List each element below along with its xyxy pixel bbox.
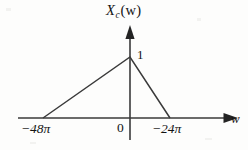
x-tick-label-right: −24π <box>152 122 181 136</box>
origin-label: 0 <box>117 121 124 135</box>
x-tick-label-left: −48π <box>21 122 50 136</box>
title-subscript: c <box>115 10 119 20</box>
triangular-spectrum-trace <box>43 57 170 118</box>
title-argument: (w) <box>121 2 142 18</box>
title-base: X <box>106 2 115 18</box>
figure-title: Xc(w) <box>106 3 141 20</box>
x-axis-name-label: w <box>231 112 240 125</box>
signal-spectrum-figure: Xc(w) 1 0 −48π −24π w <box>0 0 248 150</box>
peak-amplitude-label: 1 <box>137 48 144 61</box>
y-axis-arrowhead-icon <box>125 25 134 39</box>
